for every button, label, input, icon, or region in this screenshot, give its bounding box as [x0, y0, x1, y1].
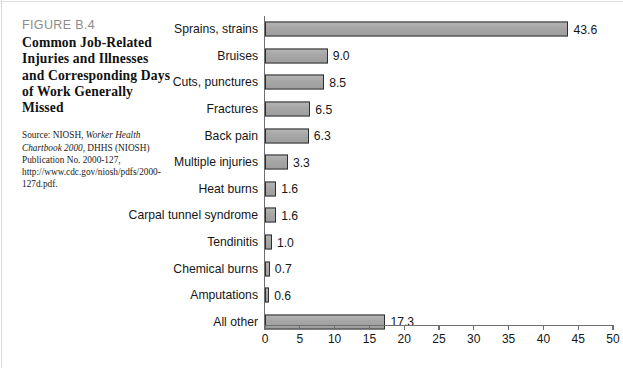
x-axis-tick-mark — [404, 325, 405, 330]
bar-row: All other17.3 — [0, 309, 623, 336]
bar-row: Heat burns1.6 — [0, 176, 623, 203]
bar-and-value: 6.3 — [265, 128, 331, 143]
bar-and-value: 1.6 — [265, 181, 298, 196]
x-axis-tick-mark — [438, 325, 439, 330]
bar-value-label: 17.3 — [390, 315, 414, 329]
bar-and-value: 8.5 — [265, 75, 346, 90]
bar-category-label: Carpal tunnel syndrome — [129, 208, 258, 222]
bar-row: Bruises9.0 — [0, 43, 623, 70]
x-axis-tick-label: 20 — [398, 332, 411, 346]
bar — [265, 261, 270, 276]
x-axis-tick-mark — [299, 325, 300, 330]
bar-row: Fractures6.5 — [0, 96, 623, 123]
x-axis-tick-label: 45 — [572, 332, 585, 346]
bar — [265, 102, 310, 117]
bar-and-value: 0.6 — [265, 288, 291, 303]
bar — [265, 314, 385, 329]
bar — [265, 208, 276, 223]
bar — [265, 288, 269, 303]
x-axis-tick-label: 10 — [328, 332, 341, 346]
bar-value-label: 0.6 — [274, 288, 291, 302]
bar-value-label: 1.6 — [281, 208, 298, 222]
x-axis-tick-label: 40 — [537, 332, 550, 346]
bar-and-value: 0.7 — [265, 261, 292, 276]
bar-row: Amputations0.6 — [0, 282, 623, 309]
figure-container: FIGURE B.4 Common Job-Related Injuries a… — [0, 0, 623, 368]
x-axis-tick-mark — [473, 325, 474, 330]
bar-and-value: 3.3 — [265, 155, 310, 170]
bar — [265, 155, 288, 170]
bar-category-label: Tendinitis — [207, 235, 258, 249]
bar-category-label: Multiple injuries — [174, 155, 258, 169]
bar-value-label: 1.0 — [277, 235, 294, 249]
bar-row: Chemical burns0.7 — [0, 255, 623, 282]
bar-value-label: 43.6 — [573, 22, 597, 36]
bar-category-label: Amputations — [190, 288, 258, 302]
bar-category-label: Chemical burns — [173, 262, 258, 276]
bar-category-label: Fractures — [207, 102, 258, 116]
x-axis-tick-mark — [334, 325, 335, 330]
bar-row: Sprains, strains43.6 — [0, 16, 623, 43]
x-axis-tick-label: 35 — [502, 332, 515, 346]
bar — [265, 128, 309, 143]
bar-and-value: 17.3 — [265, 314, 414, 329]
bar-value-label: 1.6 — [281, 182, 298, 196]
bar — [265, 181, 276, 196]
x-axis-tick-label: 5 — [296, 332, 303, 346]
bar-and-value: 9.0 — [265, 48, 350, 63]
x-axis-tick-mark — [578, 325, 579, 330]
bar-value-label: 8.5 — [329, 75, 346, 89]
bar-row: Tendinitis1.0 — [0, 229, 623, 256]
bar-value-label: 6.5 — [315, 102, 332, 116]
x-axis-tick-label: 50 — [606, 332, 619, 346]
x-axis-tick-mark — [543, 325, 544, 330]
bar-value-label: 3.3 — [293, 155, 310, 169]
x-axis-tick-label: 15 — [363, 332, 376, 346]
bar — [265, 22, 568, 37]
x-axis-tick-mark — [264, 325, 265, 330]
bar-value-label: 0.7 — [275, 262, 292, 276]
x-axis-tick-mark — [369, 325, 370, 330]
bar-value-label: 9.0 — [333, 49, 350, 63]
bar — [265, 75, 324, 90]
bar — [265, 235, 272, 250]
bar-category-label: Back pain — [204, 129, 258, 143]
bar-category-label: Cuts, punctures — [173, 75, 258, 89]
bar-category-label: Bruises — [217, 49, 258, 63]
bar-category-label: Sprains, strains — [174, 22, 258, 36]
bar-and-value: 1.6 — [265, 208, 298, 223]
bar-row: Cuts, punctures8.5 — [0, 69, 623, 96]
bar-and-value: 43.6 — [265, 22, 597, 37]
bar — [265, 48, 328, 63]
bar-row: Multiple injuries3.3 — [0, 149, 623, 176]
bar-category-label: All other — [213, 315, 258, 329]
x-axis-tick-mark — [612, 325, 613, 330]
bar-chart: Sprains, strains43.6Bruises9.0Cuts, punc… — [0, 0, 623, 368]
x-axis-tick-mark — [508, 325, 509, 330]
x-axis-tick-label: 25 — [432, 332, 445, 346]
bar-value-label: 6.3 — [314, 129, 331, 143]
bar-and-value: 1.0 — [265, 235, 294, 250]
x-axis-tick-label: 0 — [262, 332, 269, 346]
bar-and-value: 6.5 — [265, 102, 332, 117]
bar-row: Carpal tunnel syndrome1.6 — [0, 202, 623, 229]
bar-rows-container: Sprains, strains43.6Bruises9.0Cuts, punc… — [0, 16, 623, 335]
bar-category-label: Heat burns — [198, 182, 258, 196]
x-axis-tick-label: 30 — [467, 332, 480, 346]
bar-row: Back pain6.3 — [0, 122, 623, 149]
